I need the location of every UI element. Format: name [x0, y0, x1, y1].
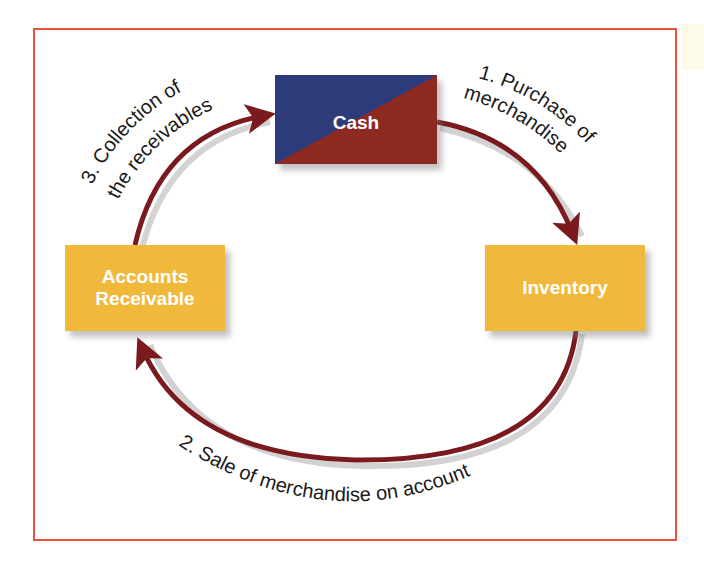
accounts-receivable-label-line2: Receivable	[95, 288, 194, 310]
inventory-node: Inventory	[485, 245, 645, 331]
accounts-receivable-label-line1: Accounts	[95, 266, 194, 288]
accounts-receivable-label: Accounts Receivable	[95, 266, 194, 310]
cash-node: Cash	[275, 75, 437, 164]
accounts-receivable-node: Accounts Receivable	[65, 245, 225, 331]
inventory-label: Inventory	[522, 277, 608, 299]
sale-label: 2. Sale of merchandise on account	[176, 430, 473, 505]
cash-label: Cash	[333, 112, 379, 134]
operating-cycle-diagram: 3. Collection of the receivables 1. Purc…	[0, 0, 704, 561]
